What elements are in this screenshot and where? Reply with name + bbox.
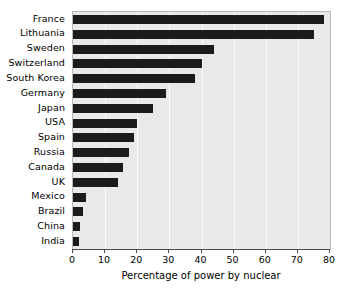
y-tick-label: Spain xyxy=(0,130,69,145)
x-tick-label: 60 xyxy=(259,255,271,265)
y-tick-label: USA xyxy=(0,115,69,130)
bar-slot xyxy=(73,234,330,249)
x-tick-mark xyxy=(297,249,298,253)
x-tick-label: 10 xyxy=(98,255,110,265)
y-tick-label: Lithuania xyxy=(0,26,69,41)
bar xyxy=(73,178,118,187)
bar-slot xyxy=(73,205,330,220)
bar xyxy=(73,148,129,157)
y-tick-label: Switzerland xyxy=(0,55,69,70)
x-tick-label: 50 xyxy=(227,255,239,265)
bars-layer xyxy=(73,12,330,249)
gridline xyxy=(330,12,331,249)
y-tick-label: Canada xyxy=(0,159,69,174)
bar xyxy=(73,89,166,98)
nuclear-power-bar-chart: France Lithuania Sweden Switzerland Sout… xyxy=(0,0,356,293)
bar-slot xyxy=(73,12,330,27)
bar-slot xyxy=(73,219,330,234)
bar-slot xyxy=(73,175,330,190)
bar xyxy=(73,133,134,142)
x-tick-mark xyxy=(104,249,105,253)
bar-slot xyxy=(73,42,330,57)
y-tick-label: China xyxy=(0,218,69,233)
y-tick-label: Brazil xyxy=(0,204,69,219)
x-tick-mark xyxy=(136,249,137,253)
x-tick-label: 70 xyxy=(291,255,303,265)
y-tick-label: India xyxy=(0,233,69,248)
y-tick-label: Japan xyxy=(0,100,69,115)
x-tick-mark xyxy=(201,249,202,253)
bar xyxy=(73,45,214,54)
y-tick-label: UK xyxy=(0,174,69,189)
bar-slot xyxy=(73,86,330,101)
bar xyxy=(73,237,79,246)
bar-slot xyxy=(73,116,330,131)
bar-slot xyxy=(73,160,330,175)
bar xyxy=(73,193,86,202)
x-axis-title: Percentage of power by nuclear xyxy=(72,271,330,281)
x-tick-label: 20 xyxy=(130,255,142,265)
bar xyxy=(73,74,195,83)
y-tick-label: Mexico xyxy=(0,189,69,204)
bar xyxy=(73,207,83,216)
y-tick-label: South Korea xyxy=(0,70,69,85)
bar xyxy=(73,222,80,231)
bar-slot xyxy=(73,145,330,160)
bar-slot xyxy=(73,190,330,205)
x-tick-mark xyxy=(233,249,234,253)
bar xyxy=(73,163,123,172)
bar-slot xyxy=(73,56,330,71)
x-tick-label: 0 xyxy=(69,255,75,265)
x-tick-label: 40 xyxy=(194,255,206,265)
bar-slot xyxy=(73,131,330,146)
y-tick-label: France xyxy=(0,11,69,26)
bar xyxy=(73,104,153,113)
y-tick-label: Germany xyxy=(0,85,69,100)
bar xyxy=(73,15,324,24)
y-tick-label: Russia xyxy=(0,144,69,159)
bar xyxy=(73,119,137,128)
x-tick-label: 80 xyxy=(323,255,335,265)
bar xyxy=(73,59,202,68)
x-tick-mark xyxy=(168,249,169,253)
x-tick-mark xyxy=(265,249,266,253)
bar xyxy=(73,30,314,39)
y-axis-category-labels: France Lithuania Sweden Switzerland Sout… xyxy=(0,11,69,248)
x-tick-label: 30 xyxy=(162,255,174,265)
plot-area xyxy=(72,11,331,250)
bar-slot xyxy=(73,27,330,42)
x-tick-mark xyxy=(329,249,330,253)
y-tick-label: Sweden xyxy=(0,41,69,56)
x-tick-mark xyxy=(72,249,73,253)
bar-slot xyxy=(73,101,330,116)
bar-slot xyxy=(73,71,330,86)
